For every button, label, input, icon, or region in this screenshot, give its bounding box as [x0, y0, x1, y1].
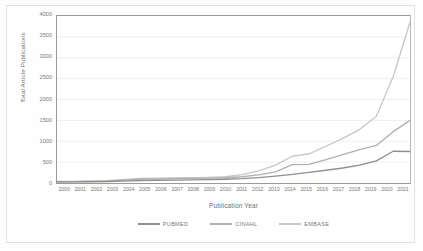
y-axis-tick-label: 3500: [22, 33, 52, 39]
x-axis-tick-label: 2000: [56, 187, 72, 199]
x-axis-tick-label: 2001: [72, 187, 88, 199]
x-axis-tick-label: 2017: [330, 187, 346, 199]
x-axis-tick-label: 2021: [395, 187, 411, 199]
legend-swatch-icon: [210, 223, 232, 225]
x-axis-tick-label: 2004: [121, 187, 137, 199]
series-line-cinahl: [57, 120, 410, 181]
y-axis-tick-label: 2000: [22, 97, 52, 103]
x-axis-tick-label: 2012: [250, 187, 266, 199]
x-axis-tick-label: 2006: [153, 187, 169, 199]
x-axis-tick-labels: 2000200120022003200420052006200720082009…: [56, 187, 411, 199]
x-axis-title: Publication Year: [56, 202, 411, 209]
x-axis-tick-label: 2005: [137, 187, 153, 199]
y-axis-tick-label: 3000: [22, 54, 52, 60]
x-axis-tick-label: 2018: [347, 187, 363, 199]
x-axis-tick-label: 2011: [234, 187, 250, 199]
legend-label: CINAHL: [235, 221, 257, 227]
x-axis-tick-label: 2016: [314, 187, 330, 199]
x-axis-tick-label: 2009: [201, 187, 217, 199]
plot-area: [56, 15, 411, 184]
x-axis-tick-label: 2010: [217, 187, 233, 199]
y-axis-tick-label: 1500: [22, 118, 52, 124]
x-axis-tick-label: 2020: [379, 187, 395, 199]
legend-label: PUBMED: [163, 221, 188, 227]
series-line-embase: [57, 22, 410, 181]
series-lines: [57, 16, 410, 183]
legend-item-cinahl[interactable]: CINAHL: [210, 221, 257, 227]
x-axis-tick-label: 2007: [169, 187, 185, 199]
y-axis-tick-label: 0: [22, 181, 52, 187]
x-axis-tick-label: 2003: [104, 187, 120, 199]
x-axis-tick-label: 2002: [88, 187, 104, 199]
legend-item-embase[interactable]: EMBASE: [279, 221, 329, 227]
x-axis-tick-label: 2008: [185, 187, 201, 199]
y-axis-tick-label: 4000: [22, 12, 52, 18]
x-axis-tick-label: 2014: [282, 187, 298, 199]
y-axis-tick-label: 500: [22, 160, 52, 166]
legend-swatch-icon: [138, 223, 160, 225]
x-axis-tick-label: 2013: [266, 187, 282, 199]
chart-figure: Total Article Publications 4000350030002…: [0, 0, 423, 251]
legend-swatch-icon: [279, 223, 301, 225]
x-axis-tick-label: 2019: [363, 187, 379, 199]
y-axis-tick-label: 2500: [22, 75, 52, 81]
legend-label: EMBASE: [304, 221, 329, 227]
x-axis-tick-label: 2015: [298, 187, 314, 199]
y-axis-tick-label: 1000: [22, 139, 52, 145]
chart-legend: PUBMEDCINAHLEMBASE: [56, 221, 411, 227]
legend-item-pubmed[interactable]: PUBMED: [138, 221, 188, 227]
